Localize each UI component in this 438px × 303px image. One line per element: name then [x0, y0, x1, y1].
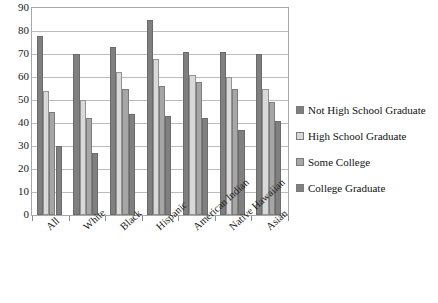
x-axis-tick: [288, 216, 289, 221]
legend-swatch-icon: [296, 184, 304, 192]
legend-item: College Graduate: [296, 178, 436, 198]
bar: [92, 153, 98, 215]
y-axis-tick-label: 80: [3, 25, 29, 36]
legend-item-label: High School Graduate: [308, 130, 406, 142]
legend-swatch-icon: [296, 132, 304, 140]
y-axis-tick-label: 60: [3, 71, 29, 82]
y-axis-tick-label: 50: [3, 94, 29, 105]
bar-group: [69, 8, 106, 215]
y-axis-tick-label: 10: [3, 186, 29, 197]
x-axis-tick: [105, 216, 106, 221]
legend-item: Not High School Graduate: [296, 100, 436, 120]
bar-group: [178, 8, 215, 215]
x-axis-tick: [32, 216, 33, 221]
bar-group: [142, 8, 179, 215]
bar: [165, 116, 171, 215]
y-axis-tick-label: 90: [3, 2, 29, 13]
x-axis-tick: [251, 216, 252, 221]
y-axis-tick-label: 30: [3, 140, 29, 151]
x-axis-tick: [142, 216, 143, 221]
bar-group: [32, 8, 69, 215]
legend-item-label: Some College: [308, 156, 370, 168]
y-axis-tick-label: 20: [3, 163, 29, 174]
bar-group: [105, 8, 142, 215]
bar: [56, 146, 62, 215]
y-axis: 9080706050403020100: [0, 0, 29, 303]
y-axis-tick-label: 40: [3, 117, 29, 128]
bar-chart: 9080706050403020100 AllWhiteBlackHispani…: [0, 0, 438, 303]
y-axis-tick-label: 0: [3, 209, 29, 220]
x-axis-label-all: All: [44, 215, 61, 232]
x-axis-tick: [178, 216, 179, 221]
bar: [129, 114, 135, 215]
y-axis-tick-label: 70: [3, 48, 29, 59]
bar: [238, 130, 244, 215]
bar: [275, 121, 281, 215]
legend-item: Some College: [296, 152, 436, 172]
x-axis-tick: [215, 216, 216, 221]
legend-item-label: College Graduate: [308, 182, 385, 194]
x-axis-tick: [69, 216, 70, 221]
bar: [202, 118, 208, 215]
legend-swatch-icon: [296, 106, 304, 114]
legend-item-label: Not High School Graduate: [308, 104, 426, 116]
legend-item: High School Graduate: [296, 126, 436, 146]
legend-swatch-icon: [296, 158, 304, 166]
chart-legend: Not High School GraduateHigh School Grad…: [296, 100, 436, 204]
